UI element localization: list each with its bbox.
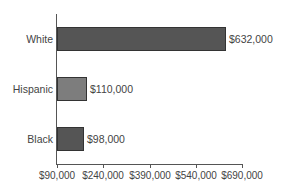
category-label-hispanic: Hispanic <box>13 83 53 95</box>
bar-black <box>57 127 84 151</box>
x-tick <box>57 164 58 168</box>
category-label-white: White <box>26 33 53 45</box>
x-tick <box>242 164 243 168</box>
value-label-hispanic: $110,000 <box>90 83 133 95</box>
value-label-black: $98,000 <box>87 133 125 145</box>
bar-hispanic <box>57 77 87 101</box>
x-tick <box>103 164 104 168</box>
x-tick-label: $690,000 <box>207 170 277 181</box>
bar-white <box>57 27 226 51</box>
category-label-black: Black <box>27 133 53 145</box>
x-tick <box>150 164 151 168</box>
value-label-white: $632,000 <box>229 33 273 45</box>
x-tick <box>196 164 197 168</box>
bar-chart: White Hispanic Black $632,000 $110,000 $… <box>0 0 284 184</box>
